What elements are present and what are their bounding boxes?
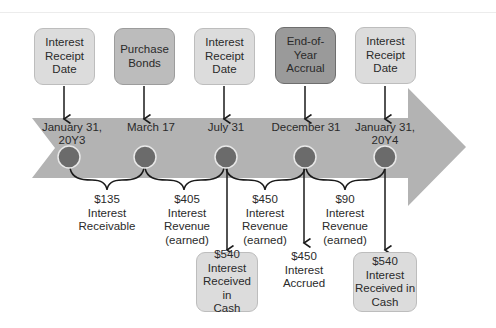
event-box-interest-receipt-jul31: Interest Receipt Date [194, 28, 255, 85]
event-box-text: Interest Receipt Date [45, 36, 84, 77]
bond-interest-timeline-diagram: Interest Receipt Date Purchase Bonds Int… [0, 0, 496, 328]
point-jan31-y3 [58, 146, 80, 168]
result-box-cash-received-jul31: $540 Interest Received in Cash [196, 252, 258, 312]
event-box-purchase-bonds: Purchase Bonds [114, 28, 175, 85]
result-label-interest-accrued: $450 Interest Accrued [283, 250, 325, 291]
date-label-mar17: March 17 [127, 121, 175, 134]
event-box-interest-receipt-jan31-y4: Interest Receipt Date [355, 27, 416, 84]
event-box-text: End-of- Year Accrual [286, 35, 324, 76]
result-box-text: $540 Interest Received in Cash [197, 248, 257, 316]
point-dec31 [294, 146, 316, 168]
period-label-interest-receivable: $135 Interest Receivable [79, 193, 136, 234]
date-label-dec31: December 31 [271, 121, 340, 134]
date-label-jan31-y3: January 31, 20Y3 [42, 121, 102, 147]
event-box-end-of-year-accrual: End-of- Year Accrual [275, 27, 336, 84]
event-box-text: Interest Receipt Date [205, 36, 244, 77]
date-label-jan31-y4: January 31, 20Y4 [355, 121, 415, 147]
timeline-arrow-band [32, 88, 466, 206]
point-jan31-y4 [374, 146, 396, 168]
period-label-revenue-jul-dec: $450 Interest Revenue (earned) [242, 193, 288, 247]
date-label-jul31: July 31 [208, 121, 244, 134]
period-label-revenue-dec-jan: $90 Interest Revenue (earned) [322, 193, 368, 247]
point-mar17 [134, 146, 156, 168]
top-arrows [64, 86, 385, 119]
result-box-cash-received-jan31-y4: $540 Interest Received in Cash [353, 252, 417, 312]
period-label-revenue-mar-jul: $405 Interest Revenue (earned) [164, 193, 210, 247]
event-box-text: Purchase Bonds [120, 43, 169, 70]
event-box-text: Interest Receipt Date [366, 35, 405, 76]
result-box-text: $540 Interest Received in Cash [355, 255, 415, 309]
event-box-interest-receipt-jan31-y3: Interest Receipt Date [34, 28, 95, 85]
point-jul31 [215, 146, 237, 168]
